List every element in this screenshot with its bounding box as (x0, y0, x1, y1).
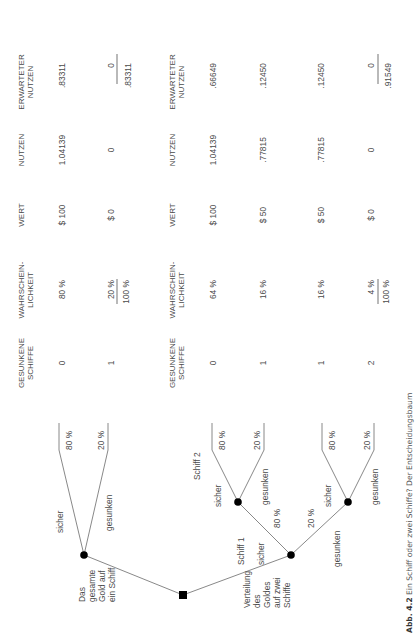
table-one-headers: GESUNKENE SCHIFFE WAHRSCHEIN- LICHKEIT W… (17, 54, 35, 388)
svg-text:$ 0: $ 0 (106, 209, 116, 221)
table-row: 1 16 % $ 50 .77815 .12450 (258, 63, 268, 366)
svg-text:.83311: .83311 (57, 63, 67, 88)
label-gesunken: gesunken (332, 530, 342, 567)
chance-node-ship1 (287, 551, 295, 559)
caption-label: Abb. 4.2 (405, 597, 414, 633)
label-sicher: sicher (256, 542, 266, 565)
svg-text:.12450: .12450 (258, 63, 268, 89)
option-two-label: Verteilung des Goldes auf zwei Schiffe (242, 570, 292, 608)
svg-text:$ 100: $ 100 (57, 204, 67, 225)
svg-text:0: 0 (366, 63, 376, 68)
prob-20: 20 % (252, 430, 262, 450)
total-prob: 100 % (121, 279, 131, 303)
svg-text:1: 1 (258, 360, 268, 365)
prob-80: 80 % (327, 430, 337, 450)
svg-text:GESUNKENE: GESUNKENE (168, 338, 177, 388)
svg-text:0: 0 (106, 147, 116, 152)
table-row: 0 64 % $ 100 1.04139 .66649 (208, 63, 218, 366)
chance-node-ship2-lower (344, 498, 352, 506)
figure-caption: Abb. 4.2 Ein Schiff oder zwei Schiffe? D… (405, 393, 414, 633)
label-sicher: sicher (323, 484, 333, 507)
svg-text:gesamte: gesamte (87, 570, 97, 602)
label-sicher: sicher (55, 510, 65, 533)
option-one-label: Das gesamte Gold auf ein Schiff (77, 567, 117, 602)
prob-20: 20 % (362, 430, 372, 450)
svg-text:NUTZEN: NUTZEN (177, 66, 186, 99)
chance-node-ship2-upper (234, 498, 242, 506)
svg-text:SCHIFFE: SCHIFFE (177, 346, 186, 380)
svg-text:.77815: .77815 (258, 137, 268, 163)
svg-text:des: des (252, 594, 262, 608)
svg-text:0: 0 (57, 360, 67, 365)
svg-text:ERWARTETER: ERWARTETER (168, 54, 177, 110)
table-two-headers: GESUNKENE SCHIFFE WAHRSCHEIN- LICHKEIT W… (168, 54, 186, 388)
svg-text:20 %: 20 % (106, 279, 116, 299)
svg-text:16 %: 16 % (316, 279, 326, 299)
svg-text:LICHKEIT: LICHKEIT (26, 272, 35, 308)
svg-text:NUTZEN: NUTZEN (26, 66, 35, 99)
svg-text:$ 50: $ 50 (258, 207, 268, 224)
label-gesunken: gesunken (260, 468, 270, 505)
svg-text:.66649: .66649 (208, 63, 218, 89)
label-schiff-1: Schiff 1 (236, 537, 246, 565)
label-gesunken: gesunken (370, 468, 380, 505)
svg-text:Schiffe: Schiffe (282, 582, 292, 608)
svg-text:0: 0 (106, 63, 116, 68)
label-schiff-2: Schiff 2 (192, 452, 202, 480)
label-sicher: sicher (213, 484, 223, 507)
table-one: GESUNKENE SCHIFFE WAHRSCHEIN- LICHKEIT W… (17, 54, 133, 388)
svg-text:Gold auf: Gold auf (97, 570, 107, 602)
svg-text:WAHRSCHEIN-: WAHRSCHEIN- (17, 261, 26, 318)
table-row: 2 4 % $ 0 0 0 (366, 63, 376, 366)
svg-text:Das: Das (77, 587, 87, 602)
svg-text:64 %: 64 % (208, 279, 218, 299)
svg-text:$ 100: $ 100 (208, 204, 218, 225)
svg-text:auf zwei: auf zwei (272, 577, 282, 608)
svg-text:4 %: 4 % (366, 279, 376, 294)
svg-text:NUTZEN: NUTZEN (17, 134, 26, 167)
total-expected: .91549 (383, 63, 393, 89)
prob-80: 80 % (64, 430, 74, 450)
svg-text:2: 2 (366, 360, 376, 365)
total-prob: 100 % (381, 279, 391, 303)
prob-80: 80 % (217, 430, 227, 450)
svg-text:.77815: .77815 (316, 137, 326, 163)
svg-text:WERT: WERT (17, 203, 26, 227)
svg-text:$ 0: $ 0 (366, 209, 376, 221)
svg-text:Goldes: Goldes (262, 581, 272, 608)
svg-text:80 %: 80 % (57, 279, 67, 299)
svg-text:0: 0 (208, 360, 218, 365)
table-row: 1 20 % $ 0 0 0 (106, 63, 116, 366)
svg-text:0: 0 (366, 147, 376, 152)
svg-text:1: 1 (106, 360, 116, 365)
label-gesunken: gesunken (104, 494, 114, 531)
decision-tree-figure: Das gesamte Gold auf ein Schiff sicher g… (0, 0, 419, 641)
total-expected: .83311 (123, 63, 133, 88)
table-row: 1 16 % $ 50 .77815 .12450 (316, 63, 326, 366)
svg-text:1.04139: 1.04139 (208, 135, 218, 166)
svg-text:NUTZEN: NUTZEN (168, 134, 177, 167)
svg-text:LICHKEIT: LICHKEIT (177, 272, 186, 308)
chance-node-one-ship (80, 551, 88, 559)
svg-text:WERT: WERT (168, 203, 177, 227)
svg-text:ERWARTETER: ERWARTETER (17, 54, 26, 110)
svg-text:SCHIFFE: SCHIFFE (26, 346, 35, 380)
svg-text:1.04139: 1.04139 (57, 135, 67, 166)
svg-text:$ 50: $ 50 (316, 207, 326, 224)
prob-80: 80 % (272, 508, 282, 528)
decision-node-square (179, 591, 187, 599)
table-two: GESUNKENE SCHIFFE WAHRSCHEIN- LICHKEIT W… (168, 54, 393, 388)
svg-text:GESUNKENE: GESUNKENE (17, 338, 26, 388)
svg-text:16 %: 16 % (258, 279, 268, 299)
svg-text:1: 1 (316, 360, 326, 365)
prob-20: 20 % (96, 430, 106, 450)
svg-text:ein Schiff: ein Schiff (107, 567, 117, 602)
svg-text:.12450: .12450 (316, 63, 326, 89)
table-row: 0 80 % $ 100 1.04139 .83311 (57, 63, 67, 366)
svg-text:Verteilung: Verteilung (242, 570, 252, 608)
prob-20: 20 % (306, 508, 316, 528)
svg-text:WAHRSCHEIN-: WAHRSCHEIN- (168, 261, 177, 318)
caption-text: Ein Schiff oder zwei Schiffe? Der Entsch… (405, 393, 414, 595)
